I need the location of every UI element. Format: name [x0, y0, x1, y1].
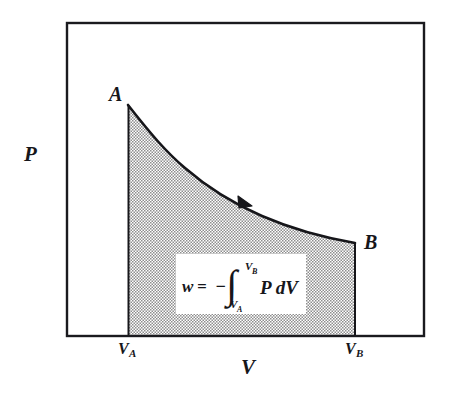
x-tick-label-vb: VB: [345, 341, 363, 359]
pv-diagram: [0, 0, 450, 397]
x-axis-label: V: [241, 357, 255, 378]
formula-integrand: P dV: [259, 277, 299, 298]
x-tick-label-va: VA: [118, 341, 136, 359]
formula-equals: =: [197, 277, 207, 296]
x-tick-va-sub: A: [129, 347, 136, 359]
work-formula-box: w = − ∫ V B V A P dV: [176, 254, 306, 314]
y-axis-label: P: [24, 144, 37, 165]
x-tick-vb-base: V: [345, 340, 356, 357]
x-tick-va-base: V: [118, 340, 129, 357]
point-b-label: B: [364, 232, 377, 252]
integral-lower-limit-sub: A: [236, 305, 243, 314]
point-a-label: A: [109, 84, 122, 104]
formula-lhs: w: [182, 277, 194, 296]
work-formula: w = − ∫ V B V A P dV: [176, 254, 306, 314]
formula-minus-sign: −: [215, 276, 226, 296]
x-tick-vb-sub: B: [356, 347, 363, 359]
integral-upper-limit-sub: B: [251, 267, 258, 276]
